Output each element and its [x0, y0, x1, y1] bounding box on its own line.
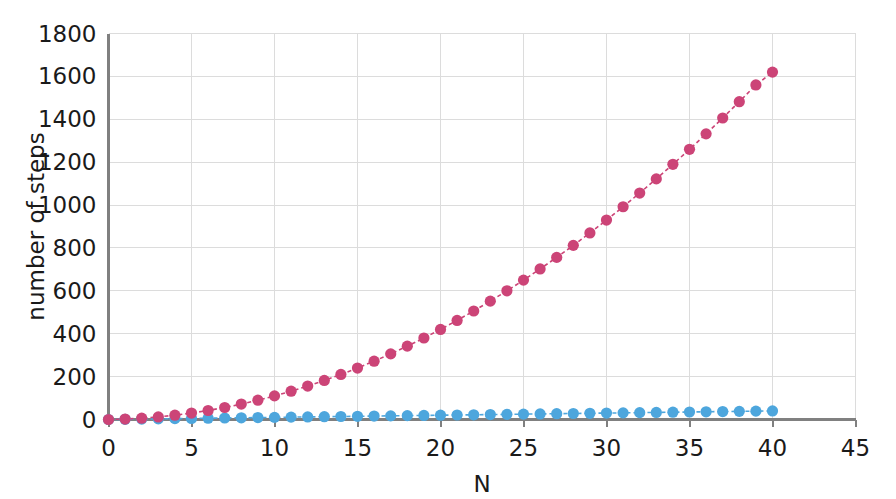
data-point-linear	[584, 408, 595, 419]
data-point-linear	[551, 408, 562, 419]
data-point-quadratic	[618, 201, 629, 212]
y-axis-title: number of steps	[23, 132, 49, 320]
data-point-linear	[651, 407, 662, 418]
data-point-quadratic	[684, 144, 695, 155]
data-point-quadratic	[717, 112, 728, 123]
data-point-quadratic	[136, 413, 147, 424]
data-point-linear	[452, 409, 463, 420]
data-point-linear	[435, 410, 446, 421]
data-point-quadratic	[750, 79, 761, 90]
data-point-linear	[319, 411, 330, 422]
data-point-quadratic	[584, 227, 595, 238]
data-point-linear	[269, 412, 280, 423]
data-point-linear	[750, 406, 761, 417]
data-point-linear	[568, 408, 579, 419]
x-tick-label: 30	[592, 435, 621, 461]
data-point-linear	[618, 407, 629, 418]
data-point-quadratic	[468, 305, 479, 316]
gridlines	[109, 34, 856, 420]
data-point-quadratic	[319, 375, 330, 386]
data-point-linear	[518, 409, 529, 420]
data-point-quadratic	[103, 414, 114, 425]
data-point-linear	[286, 412, 297, 423]
y-tick-label: 1800	[38, 21, 97, 47]
data-point-linear	[501, 409, 512, 420]
x-tick-label: 40	[758, 435, 787, 461]
y-tick-label: 400	[53, 321, 97, 347]
data-point-quadratic	[203, 405, 214, 416]
data-point-quadratic	[485, 296, 496, 307]
data-point-linear	[535, 408, 546, 419]
data-point-quadratic	[601, 214, 612, 225]
data-point-quadratic	[568, 240, 579, 251]
data-point-linear	[667, 407, 678, 418]
data-point-linear	[369, 410, 380, 421]
data-point-quadratic	[302, 380, 313, 391]
data-point-quadratic	[501, 285, 512, 296]
data-point-quadratic	[701, 128, 712, 139]
y-tick-label: 800	[53, 235, 97, 261]
x-tick-label: 45	[841, 435, 870, 461]
x-tick-label: 10	[260, 435, 289, 461]
y-tick-label: 600	[53, 278, 97, 304]
x-tick-label: 15	[343, 435, 372, 461]
data-point-linear	[601, 407, 612, 418]
data-point-linear	[684, 406, 695, 417]
x-tick-label: 20	[426, 435, 455, 461]
data-point-quadratic	[169, 410, 180, 421]
data-point-linear	[252, 412, 263, 423]
data-point-linear	[385, 410, 396, 421]
y-tick-label: 1400	[38, 106, 97, 132]
y-tick-label: 200	[53, 364, 97, 390]
data-point-quadratic	[352, 362, 363, 373]
plot-canvas: 020040060080010001200140016001800 051015…	[0, 0, 896, 499]
data-point-quadratic	[402, 341, 413, 352]
chart-figure: 020040060080010001200140016001800 051015…	[0, 0, 896, 499]
x-tick-label: 0	[101, 435, 116, 461]
data-point-linear	[352, 411, 363, 422]
data-point-quadratic	[219, 402, 230, 413]
data-point-linear	[717, 406, 728, 417]
data-point-quadratic	[634, 187, 645, 198]
data-point-quadratic	[418, 332, 429, 343]
data-point-quadratic	[335, 369, 346, 380]
data-point-quadratic	[535, 263, 546, 274]
data-point-quadratic	[153, 411, 164, 422]
data-point-quadratic	[369, 356, 380, 367]
axis-spines	[109, 34, 856, 420]
data-point-quadratic	[452, 315, 463, 326]
data-point-quadratic	[651, 173, 662, 184]
data-point-linear	[302, 411, 313, 422]
x-tick-label: 35	[675, 435, 704, 461]
x-tick-label: 5	[184, 435, 199, 461]
data-point-quadratic	[269, 390, 280, 401]
y-tick-label: 0	[82, 407, 97, 433]
data-point-linear	[634, 407, 645, 418]
data-point-quadratic	[120, 413, 131, 424]
data-point-quadratic	[236, 398, 247, 409]
data-point-quadratic	[385, 348, 396, 359]
data-point-quadratic	[734, 96, 745, 107]
data-point-quadratic	[286, 386, 297, 397]
data-point-linear	[485, 409, 496, 420]
x-axis-title: N	[473, 471, 490, 497]
x-axis-tick-labels: 051015202530354045	[101, 435, 870, 461]
data-point-quadratic	[435, 324, 446, 335]
x-tick-label: 25	[509, 435, 538, 461]
data-point-quadratic	[518, 275, 529, 286]
data-point-linear	[701, 406, 712, 417]
data-point-linear	[219, 412, 230, 423]
data-point-linear	[335, 411, 346, 422]
data-point-linear	[402, 410, 413, 421]
data-point-linear	[734, 406, 745, 417]
data-point-quadratic	[667, 159, 678, 170]
data-point-quadratic	[252, 395, 263, 406]
data-point-linear	[418, 410, 429, 421]
data-point-linear	[236, 412, 247, 423]
data-point-quadratic	[551, 252, 562, 263]
data-point-quadratic	[767, 67, 778, 78]
data-point-linear	[767, 405, 778, 416]
y-tick-label: 1600	[38, 63, 97, 89]
data-point-quadratic	[186, 407, 197, 418]
data-point-linear	[468, 409, 479, 420]
